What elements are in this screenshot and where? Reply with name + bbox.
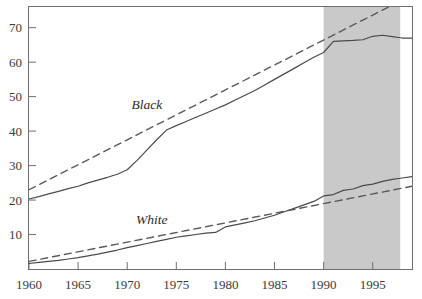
line-chart: 10203040506070 1960196519701975198019851… [0, 0, 422, 299]
y-tick-label: 20 [9, 193, 22, 208]
chart-figure: 10203040506070 1960196519701975198019851… [0, 0, 422, 299]
series-label-black: Black [131, 97, 163, 112]
y-tick-label: 10 [9, 227, 22, 242]
y-tick-label: 30 [9, 158, 22, 173]
y-tick-label: 60 [9, 55, 22, 70]
x-tick-label: 1975 [163, 277, 189, 292]
y-tick-label: 50 [9, 89, 22, 104]
x-tick-label: 1995 [360, 277, 386, 292]
x-tick-label: 1960 [16, 277, 42, 292]
shaded-band [324, 7, 401, 269]
x-tick-label: 1985 [262, 277, 288, 292]
x-tick-label: 1965 [65, 277, 91, 292]
y-tick-label: 70 [9, 20, 22, 35]
y-tick-label: 40 [9, 124, 22, 139]
shaded-region [324, 7, 401, 269]
x-tick-label: 1990 [311, 277, 337, 292]
x-tick-label: 1980 [212, 277, 238, 292]
x-tick-label: 1970 [114, 277, 140, 292]
series-label-white: White [136, 212, 168, 227]
